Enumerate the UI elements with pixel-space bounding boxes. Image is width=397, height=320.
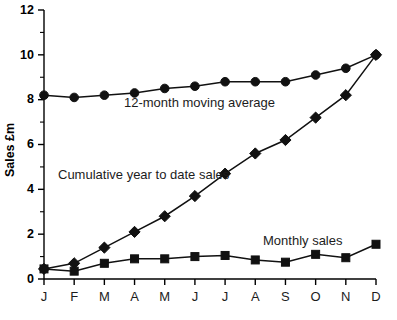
x-tick-label: J [192, 289, 199, 304]
x-tick-label: M [159, 289, 170, 304]
data-point-circle [160, 84, 169, 93]
y-axis-label: Sales £m [3, 123, 17, 177]
data-point-square [342, 254, 350, 262]
data-point-circle [70, 93, 79, 102]
series-annotation-3: Monthly sales [263, 233, 343, 248]
x-tick-label: O [311, 289, 321, 304]
chart-background [0, 0, 397, 320]
y-tick-label: 10 [20, 48, 34, 62]
x-tick-label: D [371, 289, 380, 304]
x-tick-label: J [222, 289, 229, 304]
x-tick-label: J [41, 289, 48, 304]
sales-line-chart: Sales £m 024681012 JFMAMJJASOND 12-month… [0, 0, 397, 320]
series-annotation-2: Cumulative year to date sales [58, 167, 230, 182]
data-point-square [161, 255, 169, 263]
x-tick-label: M [99, 289, 110, 304]
x-tick-label: S [281, 289, 290, 304]
chart-container: Sales £m 024681012 JFMAMJJASOND 12-month… [0, 0, 397, 320]
data-point-circle [251, 77, 260, 86]
data-point-square [70, 267, 78, 275]
y-tick-label: 8 [27, 92, 34, 106]
data-point-square [372, 240, 380, 248]
data-point-square [221, 251, 229, 259]
y-tick-label: 12 [20, 3, 34, 17]
x-tick-label: A [130, 289, 139, 304]
data-point-circle [100, 91, 109, 100]
y-tick-label: 2 [27, 227, 34, 241]
data-point-square [312, 250, 320, 258]
data-point-circle [342, 64, 351, 73]
data-point-circle [311, 71, 320, 80]
data-point-square [251, 256, 259, 264]
data-point-circle [221, 77, 230, 86]
data-point-square [40, 265, 48, 273]
y-tick-label: 0 [27, 272, 34, 286]
data-point-circle [191, 82, 200, 91]
y-tick-label: 6 [27, 137, 34, 151]
data-point-square [191, 253, 199, 261]
x-tick-label: F [70, 289, 78, 304]
x-tick-label: N [341, 289, 350, 304]
data-point-circle [281, 77, 290, 86]
data-point-square [100, 259, 108, 267]
data-point-square [281, 258, 289, 266]
series-annotation-1: 12-month moving average [124, 95, 275, 110]
data-point-square [131, 255, 139, 263]
x-tick-label: A [251, 289, 260, 304]
data-point-circle [40, 91, 49, 100]
y-tick-label: 4 [27, 182, 34, 196]
